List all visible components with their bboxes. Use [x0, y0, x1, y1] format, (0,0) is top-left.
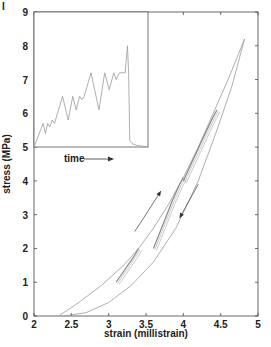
- x-tick-label: 4.5: [214, 319, 228, 330]
- time-arrow-icon: [84, 157, 114, 162]
- x-axis-label: strain (millistrain): [104, 328, 188, 339]
- arrow-icon: [180, 184, 199, 218]
- inset-time-label: time: [64, 153, 85, 164]
- y-tick-label: 8: [22, 41, 28, 52]
- x-tick-label: 2: [31, 319, 37, 330]
- y-tick-label: 7: [22, 75, 28, 86]
- y-tick-label: 3: [22, 210, 28, 221]
- curve-series: [116, 248, 138, 282]
- stress-strain-chart: I 22.533.544.55 0123456789 strain (milli…: [0, 0, 271, 347]
- y-tick-label: 6: [22, 108, 28, 119]
- y-tick-label: 1: [22, 277, 28, 288]
- y-tick-label: 0: [22, 311, 28, 322]
- y-axis-label: stress (MPa): [1, 134, 12, 193]
- y-tick-label: 5: [22, 142, 28, 153]
- x-tick-label: 2.5: [64, 319, 78, 330]
- panel-label: I: [2, 1, 5, 12]
- curve-series: [153, 178, 183, 249]
- arrow-icon: [135, 191, 161, 232]
- y-tick-label: 9: [22, 7, 28, 18]
- inset-frame: [34, 12, 148, 147]
- y-tick-label: 2: [22, 243, 28, 254]
- curve-series: [183, 110, 217, 181]
- y-tick-label: 4: [22, 176, 28, 187]
- x-tick-label: 5: [255, 319, 261, 330]
